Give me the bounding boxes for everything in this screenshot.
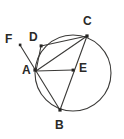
vertex-dot-c <box>85 34 88 37</box>
segment-a-d <box>36 46 41 71</box>
vertex-dot-f <box>19 44 22 47</box>
point-label-c: C <box>83 15 92 27</box>
geometry-figure: A B C D E F <box>0 0 124 139</box>
vertex-dot-d <box>40 44 43 47</box>
vertex-dot-b <box>58 108 61 111</box>
vertex-dot-e <box>72 69 75 72</box>
point-label-b: B <box>55 119 64 131</box>
vertex-dot-a <box>33 68 36 71</box>
point-label-d: D <box>29 31 38 43</box>
point-label-a: A <box>22 64 31 76</box>
point-label-e: E <box>79 62 87 74</box>
point-label-f: F <box>5 33 12 45</box>
segment-a-e <box>36 70 73 71</box>
